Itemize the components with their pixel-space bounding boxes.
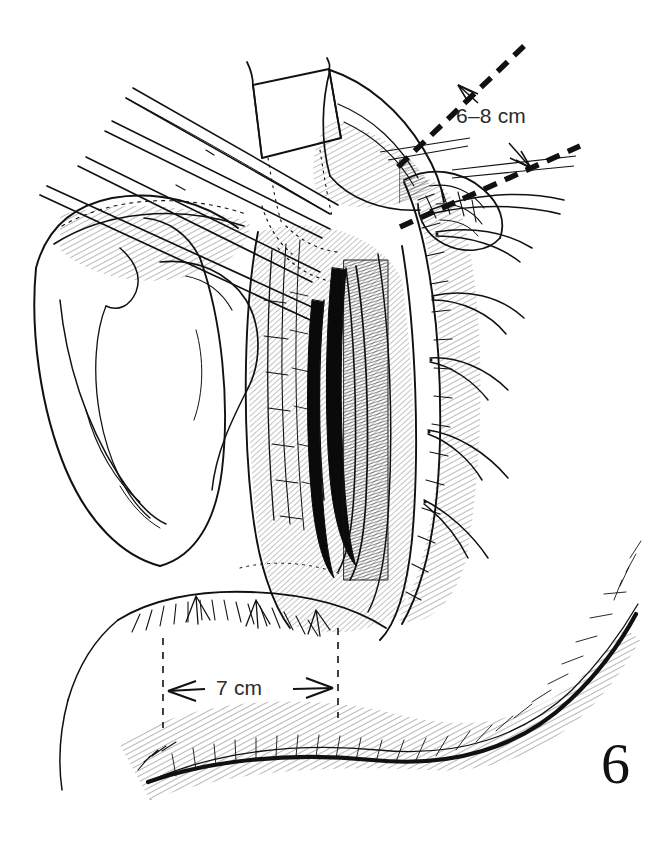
proximal-margin-label: 6–8 cm (456, 104, 526, 128)
distal-width-label: 7 cm (216, 676, 262, 700)
figure-page: 6–8 cm 7 cm 6 (0, 0, 672, 853)
figure-number: 6 (601, 735, 630, 793)
surgical-line-drawing (0, 0, 672, 853)
